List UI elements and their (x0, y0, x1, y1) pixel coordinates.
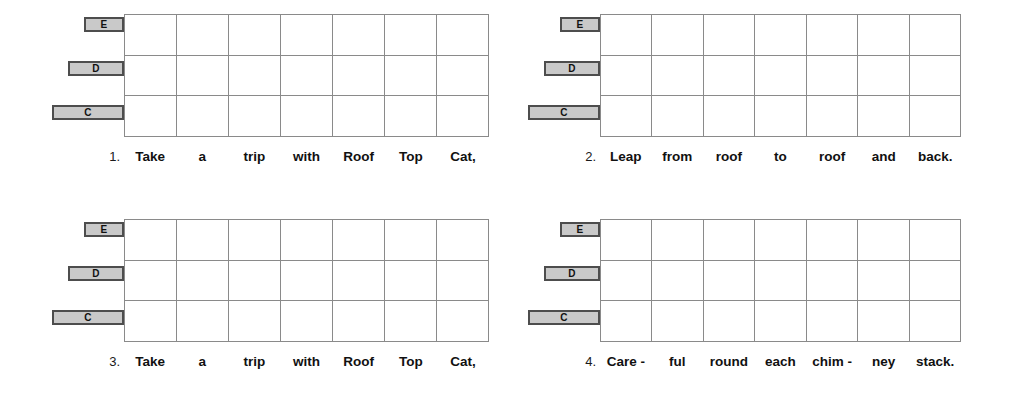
grid-cell[interactable] (910, 301, 961, 342)
grid-cell[interactable] (601, 261, 652, 302)
grid-cell[interactable] (125, 301, 177, 342)
grid-cell[interactable] (177, 220, 229, 261)
grid-cell[interactable] (333, 301, 385, 342)
grid-cell[interactable] (807, 56, 858, 97)
grid-cell[interactable] (437, 301, 489, 342)
grid-cell[interactable] (177, 301, 229, 342)
grid-cell[interactable] (755, 301, 806, 342)
note-label-column: E D C (516, 219, 600, 352)
grid-cell[interactable] (652, 56, 703, 97)
grid-cell[interactable] (177, 96, 229, 137)
grid-cell[interactable] (652, 301, 703, 342)
grid-cell[interactable] (858, 261, 909, 302)
grid-cell[interactable] (807, 301, 858, 342)
grid-cell[interactable] (910, 56, 961, 97)
lyric-row: 1. Take a trip with Roof Top Cat, (40, 147, 510, 171)
grid-cell[interactable] (437, 56, 489, 97)
grid-cell[interactable] (601, 220, 652, 261)
grid-cell[interactable] (601, 301, 652, 342)
lyric-syllable: roof (703, 147, 755, 167)
composition-panel-1: E D C 1. (40, 14, 510, 189)
composition-panel-4: E D C 4. (516, 219, 986, 394)
grid-cell[interactable] (333, 220, 385, 261)
grid-cell[interactable] (333, 96, 385, 137)
grid-cell[interactable] (755, 220, 806, 261)
composition-grid[interactable] (600, 14, 961, 137)
grid-cell[interactable] (281, 56, 333, 97)
grid-cell[interactable] (652, 261, 703, 302)
grid-cell[interactable] (858, 301, 909, 342)
grid-cell[interactable] (910, 96, 961, 137)
grid-cell[interactable] (652, 15, 703, 56)
grid-cell[interactable] (755, 56, 806, 97)
grid-cell[interactable] (385, 56, 437, 97)
lyric-syllable: Care - (600, 352, 652, 372)
grid-cell[interactable] (755, 15, 806, 56)
grid-cell[interactable] (601, 96, 652, 137)
grid-cell[interactable] (281, 15, 333, 56)
grid-cell[interactable] (437, 220, 489, 261)
grid-cell[interactable] (125, 56, 177, 97)
lyric-syllable: with (280, 147, 332, 167)
grid-cell[interactable] (755, 96, 806, 137)
grid-cell[interactable] (177, 15, 229, 56)
grid-cell[interactable] (858, 15, 909, 56)
grid-cell[interactable] (229, 261, 281, 302)
grid-cell[interactable] (807, 96, 858, 137)
grid-cell[interactable] (229, 96, 281, 137)
grid-cell[interactable] (652, 96, 703, 137)
grid-cell[interactable] (704, 15, 755, 56)
grid-cell[interactable] (601, 56, 652, 97)
composition-grid[interactable] (124, 14, 489, 137)
grid-cell[interactable] (281, 220, 333, 261)
note-label-column: E D C (40, 219, 124, 352)
grid-cell[interactable] (437, 96, 489, 137)
grid-cell[interactable] (858, 56, 909, 97)
grid-cell[interactable] (125, 261, 177, 302)
grid-cell[interactable] (437, 15, 489, 56)
grid-cell[interactable] (281, 261, 333, 302)
grid-cell[interactable] (858, 220, 909, 261)
grid-cell[interactable] (333, 15, 385, 56)
grid-cell[interactable] (229, 15, 281, 56)
grid-cell[interactable] (910, 220, 961, 261)
grid-cell[interactable] (704, 96, 755, 137)
lyric-syllable: chim - (806, 352, 858, 372)
grid-cell[interactable] (281, 96, 333, 137)
grid-cell[interactable] (910, 15, 961, 56)
grid-cell[interactable] (437, 261, 489, 302)
lyric-words: Take a trip with Roof Top Cat, (124, 147, 489, 167)
grid-cell[interactable] (652, 220, 703, 261)
grid-cell[interactable] (755, 261, 806, 302)
grid-cell[interactable] (807, 220, 858, 261)
grid-cell[interactable] (385, 96, 437, 137)
grid-cell[interactable] (807, 15, 858, 56)
grid-cell[interactable] (125, 15, 177, 56)
composition-grid[interactable] (124, 219, 489, 342)
grid-cell[interactable] (177, 56, 229, 97)
grid-cell[interactable] (807, 261, 858, 302)
composition-grid[interactable] (600, 219, 961, 342)
grid-cell[interactable] (125, 220, 177, 261)
grid-cell[interactable] (229, 301, 281, 342)
grid-cell[interactable] (385, 261, 437, 302)
lyric-syllable: roof (806, 147, 858, 167)
grid-cell[interactable] (229, 56, 281, 97)
grid-cell[interactable] (125, 96, 177, 137)
grid-cell[interactable] (333, 56, 385, 97)
grid-cell[interactable] (704, 301, 755, 342)
grid-cell[interactable] (858, 96, 909, 137)
grid-cell[interactable] (385, 301, 437, 342)
grid-cell[interactable] (601, 15, 652, 56)
grid-cell[interactable] (229, 220, 281, 261)
grid-cell[interactable] (385, 15, 437, 56)
grid-cell[interactable] (385, 220, 437, 261)
grid-cell[interactable] (704, 220, 755, 261)
grid-cell[interactable] (177, 261, 229, 302)
lyric-syllable: Take (124, 352, 176, 372)
grid-cell[interactable] (333, 261, 385, 302)
grid-cell[interactable] (704, 56, 755, 97)
grid-cell[interactable] (910, 261, 961, 302)
grid-cell[interactable] (704, 261, 755, 302)
grid-cell[interactable] (281, 301, 333, 342)
